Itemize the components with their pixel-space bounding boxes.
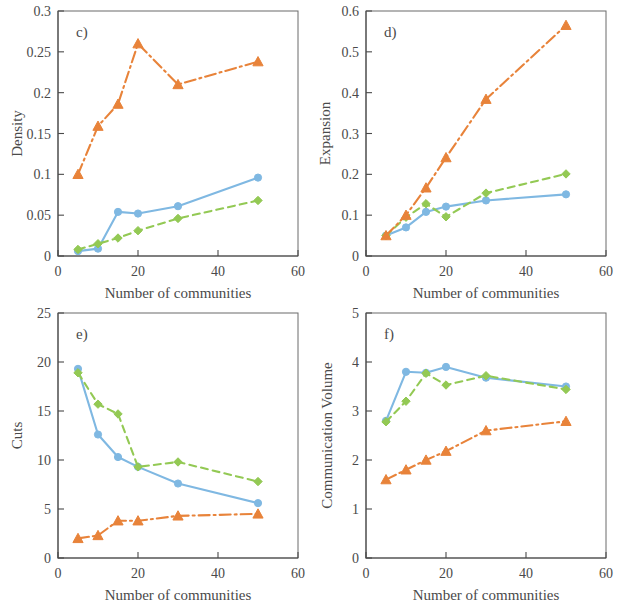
x-axis: 0204060	[55, 552, 306, 581]
series-green	[382, 170, 570, 240]
data-point-blue	[134, 210, 141, 217]
data-point-green	[442, 213, 450, 221]
series-line-blue	[386, 194, 566, 235]
data-point-blue	[254, 174, 261, 181]
y-tick-label: 5	[352, 306, 359, 321]
y-tick-label: 2	[352, 453, 359, 468]
data-point-blue	[442, 363, 449, 370]
y-tick-label: 0.1	[342, 208, 360, 223]
y-axis-title: Density	[9, 110, 25, 157]
data-point-blue	[422, 208, 429, 215]
axes	[366, 313, 606, 558]
y-tick-label: 0.4	[342, 86, 360, 101]
x-axis: 0204060	[363, 250, 614, 279]
plot-f: 0123450204060Number of communitiesCommun…	[308, 302, 616, 604]
x-tick-label: 20	[131, 566, 145, 581]
series-orange	[73, 39, 263, 179]
y-axis-title: Expansion	[317, 101, 333, 165]
data-point-blue	[254, 500, 261, 507]
plot-e: 05101520250204060Number of communitiesCu…	[0, 302, 308, 604]
panel-letter: c)	[76, 24, 88, 41]
x-tick-label: 60	[599, 566, 613, 581]
series-blue	[74, 365, 261, 506]
subplot-c: 00.050.10.150.20.250.30204060Number of c…	[0, 0, 308, 302]
x-tick-label: 0	[363, 566, 370, 581]
x-tick-label: 20	[439, 264, 453, 279]
figure-container: 00.050.10.150.20.250.30204060Number of c…	[0, 0, 617, 605]
data-point-orange	[441, 152, 451, 161]
data-point-orange	[561, 20, 571, 29]
y-tick-label: 0.25	[27, 45, 52, 60]
panel-letter: f)	[384, 326, 394, 343]
data-point-orange	[253, 57, 263, 66]
y-axis: 0510152025	[37, 306, 64, 566]
data-point-green	[174, 214, 182, 222]
series-line-orange	[78, 44, 258, 175]
y-axis: 00.10.20.30.40.50.6	[342, 4, 373, 264]
data-point-blue	[94, 431, 101, 438]
y-tick-label: 15	[37, 404, 51, 419]
data-point-blue	[562, 191, 569, 198]
y-tick-label: 0.1	[34, 167, 52, 182]
y-tick-label: 25	[37, 306, 51, 321]
x-axis-title: Number of communities	[413, 285, 560, 301]
x-axis: 0204060	[55, 250, 306, 279]
plot-frame	[366, 313, 606, 558]
x-axis-title: Number of communities	[105, 285, 252, 301]
series-line-blue	[78, 178, 258, 252]
data-point-green	[174, 458, 182, 466]
y-tick-label: 0.3	[34, 4, 52, 19]
series-line-blue	[78, 369, 258, 503]
data-point-orange	[441, 446, 451, 455]
data-point-orange	[113, 99, 123, 108]
series-line-green	[78, 373, 258, 482]
series-orange	[381, 20, 571, 240]
y-tick-label: 0.05	[27, 208, 52, 223]
x-tick-label: 0	[55, 566, 62, 581]
data-point-green	[134, 226, 142, 234]
y-tick-label: 0.2	[342, 167, 360, 182]
y-tick-label: 0	[352, 249, 359, 264]
series-orange	[381, 416, 571, 484]
y-tick-label: 0.2	[34, 86, 52, 101]
series-green	[74, 196, 262, 253]
subplot-e: 05101520250204060Number of communitiesCu…	[0, 302, 308, 604]
data-point-green	[134, 463, 142, 471]
subplot-d: 00.10.20.30.40.50.60204060Number of comm…	[308, 0, 616, 302]
data-point-blue	[402, 224, 409, 231]
x-tick-label: 60	[599, 264, 613, 279]
series-green	[382, 369, 570, 426]
y-tick-label: 0	[352, 551, 359, 566]
y-tick-label: 10	[37, 453, 51, 468]
data-point-green	[562, 170, 570, 178]
plot-c: 00.050.10.150.20.250.30204060Number of c…	[0, 0, 308, 302]
subplot-f: 0123450204060Number of communitiesCommun…	[308, 302, 616, 604]
x-axis: 0204060	[363, 552, 614, 581]
y-tick-label: 0.3	[342, 127, 360, 142]
data-point-orange	[133, 39, 143, 48]
x-tick-label: 40	[211, 264, 225, 279]
x-tick-label: 40	[211, 566, 225, 581]
x-tick-label: 40	[519, 566, 533, 581]
data-point-green	[114, 410, 122, 418]
x-axis-title: Number of communities	[413, 587, 560, 603]
y-tick-label: 3	[352, 404, 359, 419]
y-tick-label: 20	[37, 355, 51, 370]
x-tick-label: 0	[55, 264, 62, 279]
data-point-orange	[381, 475, 391, 484]
data-point-green	[94, 400, 102, 408]
data-point-blue	[174, 480, 181, 487]
series-green	[74, 369, 262, 486]
data-point-blue	[442, 203, 449, 210]
x-tick-label: 60	[291, 566, 305, 581]
y-axis: 012345	[352, 306, 372, 566]
data-point-green	[254, 477, 262, 485]
data-point-blue	[114, 453, 121, 460]
y-tick-label: 0	[44, 249, 51, 264]
data-point-green	[442, 381, 450, 389]
y-tick-label: 4	[352, 355, 359, 370]
series-orange	[73, 509, 263, 543]
y-tick-label: 0.5	[342, 45, 360, 60]
data-point-orange	[401, 465, 411, 474]
series-line-orange	[386, 25, 566, 235]
